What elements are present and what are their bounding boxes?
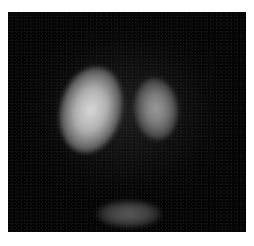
bottom-uptake-region — [96, 200, 162, 228]
scan-image — [8, 12, 246, 232]
image-noise — [8, 12, 246, 232]
figure-caption — [6, 238, 246, 246]
